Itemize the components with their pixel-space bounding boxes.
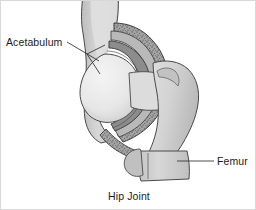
label-femur: Femur xyxy=(217,155,248,167)
label-acetabulum: Acetabulum xyxy=(6,36,63,48)
hip-joint-illustration: Acetabulum Femur Hip Joint xyxy=(1,1,256,210)
femoral-shaft xyxy=(138,151,189,181)
hip-joint-figure: Acetabulum Femur Hip Joint xyxy=(0,0,256,210)
figure-caption: Hip Joint xyxy=(108,190,150,202)
